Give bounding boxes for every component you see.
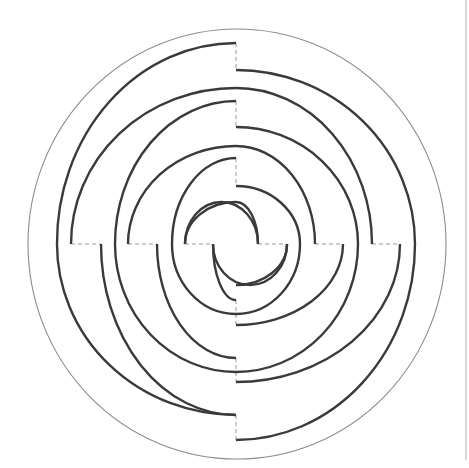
maze-wall bbox=[172, 158, 236, 314]
maze-wall bbox=[236, 244, 400, 382]
maze-openings bbox=[71, 43, 400, 440]
maze-wall bbox=[236, 244, 287, 285]
maze-outer-boundary bbox=[28, 29, 446, 459]
maze-diagram bbox=[0, 0, 469, 468]
maze-wall bbox=[115, 101, 236, 372]
maze-wall bbox=[236, 146, 315, 244]
maze-wall bbox=[57, 43, 236, 415]
maze-wall bbox=[213, 244, 287, 285]
maze-wall bbox=[236, 127, 358, 372]
maze-wall bbox=[157, 244, 236, 358]
maze-wall bbox=[185, 202, 236, 244]
